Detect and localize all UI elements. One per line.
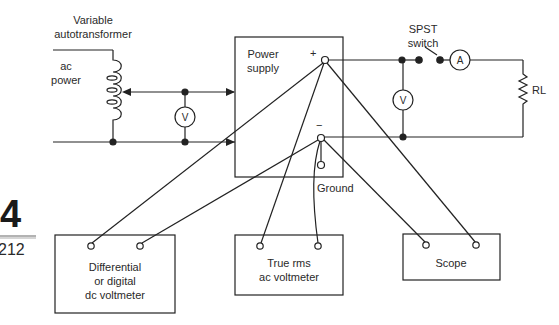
load-resistor-icon bbox=[519, 60, 527, 137]
ac-voltmeter-label: True rms ac voltmeter bbox=[259, 256, 319, 284]
plus-terminal-label: + bbox=[310, 46, 316, 60]
switch-label: SPST switch bbox=[408, 22, 439, 50]
input-voltmeter-symbol: V bbox=[182, 112, 189, 123]
supply-input-arrow-bottom-icon bbox=[226, 138, 235, 146]
plus-terminal bbox=[322, 57, 329, 64]
wiper-arrow-icon bbox=[122, 88, 131, 96]
minus-terminal-label: − bbox=[316, 118, 322, 132]
chapter-number: 4 bbox=[0, 195, 21, 233]
ammeter-symbol: A bbox=[457, 55, 464, 66]
ac-power-label: ac power bbox=[51, 59, 81, 87]
minus-terminal bbox=[318, 135, 325, 142]
autotransformer-coil-icon bbox=[107, 50, 121, 142]
autotransformer-label: Variable autotransformer bbox=[54, 13, 132, 41]
power-supply-label: Power supply bbox=[247, 47, 279, 75]
load-label: RL bbox=[532, 83, 546, 97]
dc-voltmeter-label: Differential or digital dc voltmeter bbox=[85, 260, 145, 302]
supply-input-arrow-top-icon bbox=[226, 88, 235, 96]
ground-label: Ground bbox=[317, 181, 354, 195]
ground-terminal bbox=[318, 162, 325, 169]
output-voltmeter-symbol: V bbox=[400, 95, 407, 106]
scope-label: Scope bbox=[435, 256, 466, 270]
page-number: 212 bbox=[0, 242, 25, 258]
circuit-diagram: 4 212 Variable autotransformer ac power … bbox=[0, 0, 559, 325]
